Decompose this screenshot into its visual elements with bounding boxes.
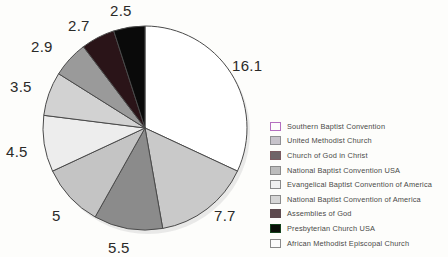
legend-item[interactable]: Southern Baptist Convention xyxy=(270,119,448,134)
legend-swatch-icon xyxy=(270,195,281,204)
legend-item-label: United Methodist Church xyxy=(287,136,372,145)
chart-legend: Southern Baptist ConventionUnited Method… xyxy=(270,119,448,250)
legend-item[interactable]: Presbyterian Church USA xyxy=(270,221,448,236)
pie-chart-figure: 16.17.75.554.53.52.92.72.5 Southern Bapt… xyxy=(0,0,448,257)
legend-swatch-icon xyxy=(270,224,281,233)
legend-item-label: Evangelical Baptist Convention of Americ… xyxy=(287,180,432,189)
pie-value-label: 3.5 xyxy=(10,78,32,95)
legend-swatch-icon xyxy=(270,122,281,131)
legend-item-label: Presbyterian Church USA xyxy=(287,224,375,233)
legend-item-label: Assemblies of God xyxy=(287,209,352,218)
legend-item[interactable]: Evangelical Baptist Convention of Americ… xyxy=(270,177,448,192)
legend-item[interactable]: National Baptist Convention of America xyxy=(270,192,448,207)
legend-item[interactable]: Assemblies of God xyxy=(270,207,448,222)
legend-item-label: Church of God in Christ xyxy=(287,151,368,160)
pie-value-label: 16.1 xyxy=(232,57,262,74)
pie-value-label: 5 xyxy=(52,207,61,224)
pie-slices-group xyxy=(43,26,250,234)
legend-swatch-icon xyxy=(270,136,281,145)
legend-item-label: National Baptist Convention USA xyxy=(287,166,400,175)
pie-value-label: 7.7 xyxy=(214,207,236,224)
pie-chart-area: 16.17.75.554.53.52.92.72.5 xyxy=(0,0,280,257)
pie-value-label: 4.5 xyxy=(6,143,28,160)
legend-item[interactable]: African Methodist Episcopal Church xyxy=(270,236,448,251)
legend-item-label: Southern Baptist Convention xyxy=(287,122,385,131)
pie-value-label: 2.9 xyxy=(31,38,53,55)
legend-item-label: African Methodist Episcopal Church xyxy=(287,239,409,248)
legend-item-label: National Baptist Convention of America xyxy=(287,195,421,204)
legend-swatch-icon xyxy=(270,151,281,160)
legend-item[interactable]: United Methodist Church xyxy=(270,134,448,149)
pie-value-label: 2.7 xyxy=(68,17,90,34)
pie-value-label: 5.5 xyxy=(108,239,130,256)
pie-value-label: 2.5 xyxy=(110,2,132,19)
legend-item[interactable]: National Baptist Convention USA xyxy=(270,163,448,178)
legend-item[interactable]: Church of God in Christ xyxy=(270,148,448,163)
legend-swatch-icon xyxy=(270,209,281,218)
legend-swatch-icon xyxy=(270,180,281,189)
legend-swatch-icon xyxy=(270,239,281,248)
legend-swatch-icon xyxy=(270,166,281,175)
